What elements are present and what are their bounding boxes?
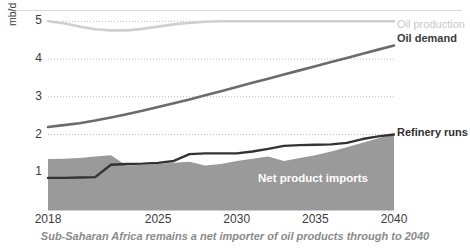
chart-caption: Sub-Saharan Africa remains a net importe…	[0, 230, 470, 242]
series-label-refinery-runs: Refinery runs	[397, 126, 468, 138]
line-oil-production	[48, 21, 394, 30]
series-label-oil-production: Oil production	[397, 18, 465, 30]
series-label-oil-demand: Oil demand	[397, 32, 457, 44]
line-oil-demand	[48, 45, 394, 127]
series-label-net-product-imports: Net product imports	[258, 172, 368, 184]
